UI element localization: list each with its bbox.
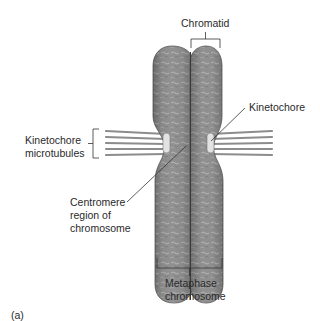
metaphase-label: Metaphase chromosome [165,277,226,303]
metaphase-line-1: Metaphase [165,277,226,290]
kinetochore-microtubules-label: Kinetochore microtubules [25,134,85,160]
centromere-line-3: chromosome [70,222,131,235]
panel-label: (a) [11,309,24,321]
chromatid-label: Chromatid [181,17,229,30]
chromosome-diagram [0,0,320,321]
centromere-line-1: Centromere [70,196,131,209]
chromatid-bracket [191,32,220,48]
kinetochore-microtubules-line-1: Kinetochore [25,134,85,147]
microtubules-right [210,131,272,155]
metaphase-line-2: chromosome [165,290,226,303]
microtubules-left [106,131,166,155]
centromere-label: Centromere region of chromosome [70,196,131,235]
kinetochore-label: Kinetochore [249,101,305,114]
kinetochore-left [163,133,170,153]
microtubules-bracket [88,129,99,158]
kinetochore-microtubules-line-2: microtubules [25,147,85,160]
kinetochore-right [207,133,214,153]
centromere-line-2: region of [70,209,131,222]
